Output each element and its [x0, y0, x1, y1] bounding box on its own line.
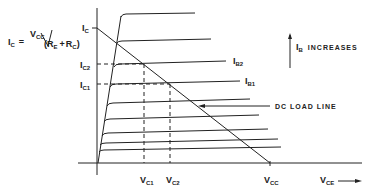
collector-curve-1 [121, 13, 195, 17]
vc1-label: VC1 [140, 175, 154, 186]
ic1-label: IC1 [80, 80, 91, 91]
ib1-label: IB1 [245, 76, 256, 87]
collector-curve-6 [104, 115, 259, 122]
ib-increases-arrow-head [288, 33, 292, 39]
equation: IC= [8, 37, 24, 48]
ib2-label: IB2 [233, 56, 244, 67]
collector-curve-5 [107, 99, 250, 106]
ib-increases-label: IBINCREASES [296, 42, 358, 53]
load-line-label: DC LOAD LINE [275, 103, 337, 110]
collector-curve-9 [99, 147, 281, 152]
vce-arrow-head [355, 179, 362, 183]
equation-denominator: (RE+RC) [44, 39, 80, 50]
vc2-label: VC2 [166, 175, 180, 186]
ic2-label: IC2 [80, 60, 91, 71]
collector-curve-7 [102, 129, 268, 136]
vcc-label: VCC [264, 175, 279, 186]
collector-curve-ib2 [114, 61, 226, 67]
characteristics-diagram: IC= VCC (RE+RC) IC IC2 IC1 VC1 VC2 VCC V… [0, 0, 370, 190]
collector-curve-ib1 [110, 81, 240, 87]
collector-curve-8 [100, 139, 278, 145]
collector-curve-2 [117, 39, 211, 43]
vce-label: VCE [320, 175, 334, 186]
ic-label: IC [82, 23, 90, 34]
